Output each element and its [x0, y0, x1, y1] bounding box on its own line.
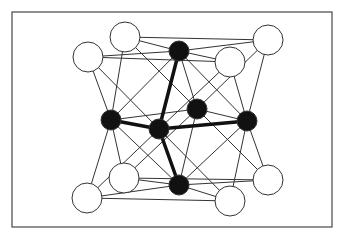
open-atom-B — [110, 22, 140, 52]
solid-atom-M — [187, 99, 207, 119]
solid-atom-R — [237, 111, 257, 131]
solid-atom-Bt — [169, 175, 189, 195]
crystal-structure-diagram — [0, 0, 345, 239]
open-atom-C — [215, 47, 245, 77]
open-atom-G — [215, 186, 245, 216]
bond-L-M — [111, 109, 197, 120]
bond-Bt-M — [179, 109, 197, 185]
open-atom-H — [253, 165, 283, 195]
bond-F-H — [124, 178, 268, 180]
bond-E-G — [87, 198, 230, 201]
bond-B-D — [125, 37, 268, 40]
solid-atom-L — [101, 110, 121, 130]
solid-atom-T — [169, 41, 189, 61]
open-atom-F — [109, 163, 139, 193]
thick-bond-X-T — [159, 51, 179, 129]
solid-atom-X — [149, 119, 169, 139]
open-atom-D — [253, 25, 283, 55]
open-atom-A — [73, 42, 103, 72]
thick-bond-X-R — [159, 121, 247, 129]
open-atom-E — [72, 183, 102, 213]
bond-Bt-R — [179, 121, 247, 185]
